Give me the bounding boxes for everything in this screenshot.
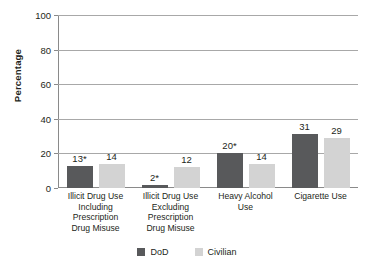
x-category-label-3: Cigarette Use [283,191,358,202]
x-axis-category-labels: Illicit Drug UseIncludingPrescriptionDru… [58,191,358,243]
legend-label: DoD [150,247,168,257]
y-tick-label: 40 [40,113,51,124]
y-tick-label: 60 [40,79,51,90]
bar-value-label: 2* [150,172,159,183]
chart-legend: DoDCivilian [0,247,374,257]
x-category-label-line: Drug Misuse [58,223,133,234]
legend-item-civilian[interactable]: Civilian [195,247,237,257]
y-tick-label: 80 [40,44,51,55]
x-category-label-line: Prescription [133,212,208,223]
y-axis-title: Percentage [12,26,23,126]
bar-chart-figure: Percentage 020406080100 13*142*1220*1431… [0,0,374,267]
legend-label: Civilian [208,247,237,257]
bar-value-label: 20* [222,140,236,151]
bar-value-label: 14 [106,151,117,162]
bars-layer: 13*142*1220*143129 [58,15,358,188]
plot-area: 020406080100 13*142*1220*143129 [58,15,358,188]
bar-value-label: 31 [299,121,310,132]
x-category-label-line: Illicit Drug Use [58,191,133,202]
bar-civilian-3: 29 [324,138,350,188]
x-category-label-line: Illicit Drug Use [133,191,208,202]
x-category-label-line: Cigarette Use [283,191,358,202]
x-category-label-1: Illicit Drug UseExcludingPrescriptionDru… [133,191,208,233]
bar-civilian-1: 12 [174,167,200,188]
bar-value-label: 13* [72,153,86,164]
y-tick-label: 100 [35,10,51,21]
x-category-label-0: Illicit Drug UseIncludingPrescriptionDru… [58,191,133,233]
bar-dod-3: 31 [292,134,318,188]
x-category-label-line: Including [58,202,133,213]
legend-item-dod[interactable]: DoD [137,247,168,257]
y-tick-label: 20 [40,148,51,159]
x-category-label-line: Heavy Alcohol [208,191,283,202]
bar-dod-1: 2* [142,185,168,188]
bar-value-label: 29 [331,125,342,136]
bar-civilian-0: 14 [99,164,125,188]
bar-value-label: 12 [181,154,192,165]
y-tick-label: 0 [46,183,51,194]
legend-swatch-icon [195,248,203,256]
x-category-label-2: Heavy AlcoholUse [208,191,283,212]
x-category-label-line: Excluding [133,202,208,213]
bar-dod-0: 13* [67,166,93,188]
legend-swatch-icon [137,248,145,256]
y-tick-mark [54,188,58,189]
x-category-label-line: Drug Misuse [133,223,208,234]
x-category-label-line: Prescription [58,212,133,223]
x-category-label-line: Use [208,202,283,213]
bar-value-label: 14 [256,151,267,162]
bar-dod-2: 20* [217,153,243,188]
bar-civilian-2: 14 [249,164,275,188]
